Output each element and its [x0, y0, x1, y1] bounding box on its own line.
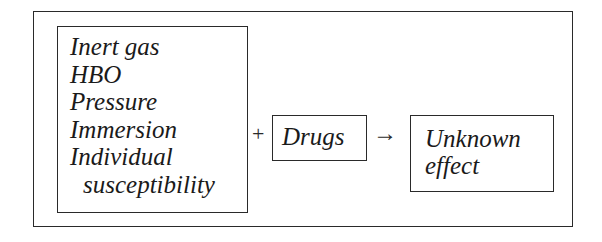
- factor-item-inert-gas: Inert gas: [70, 33, 215, 61]
- factors-list: Inert gas HBO Pressure Immersion Individ…: [70, 33, 215, 198]
- factor-item-pressure: Pressure: [70, 88, 215, 116]
- drugs-box: Drugs: [272, 115, 367, 161]
- effect-box: Unknown effect: [410, 115, 554, 192]
- drugs-label: Drugs: [282, 123, 345, 150]
- factors-box: Inert gas HBO Pressure Immersion Individ…: [57, 26, 248, 213]
- plus-operator: +: [252, 123, 264, 145]
- right-arrow-icon: →: [373, 122, 397, 144]
- factor-item-susceptibility: susceptibility: [70, 171, 215, 199]
- factor-item-individual: Individual: [70, 143, 215, 171]
- effect-label-line-1: Unknown: [425, 125, 521, 152]
- factor-item-hbo: HBO: [70, 61, 215, 89]
- effect-label-line-2: effect: [425, 152, 479, 179]
- factor-item-immersion: Immersion: [70, 116, 215, 144]
